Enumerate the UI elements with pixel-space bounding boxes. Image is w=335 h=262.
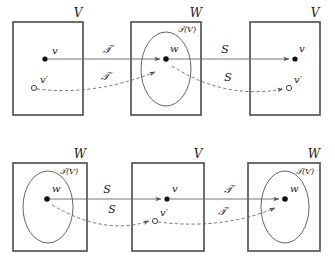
diagram-canvas: V v v′ W 𝒯(V) w V v: [0, 0, 335, 262]
point-w-label-bottom-left: w: [52, 183, 61, 194]
point-w-dot-bottom-right: [282, 196, 288, 202]
point-v-label-right: v: [299, 43, 305, 54]
point-v-dot-right: [292, 56, 297, 61]
point-v-label-bottom: v: [172, 183, 178, 194]
point-v-dot: [42, 56, 47, 61]
panel-top-right: V v v′: [250, 6, 321, 115]
point-v-prime-dot-right: [286, 85, 291, 90]
set-box-v-image: [250, 22, 320, 115]
set-label-v: V: [74, 6, 84, 20]
arrow-label-t-solid-bottom: 𝒯: [224, 183, 236, 196]
set-label-v-middle: V: [194, 147, 204, 161]
point-v-prime-dot-bottom: [152, 218, 157, 223]
linear-transformation-diagram: V v v′ W 𝒯(V) w V v: [0, 0, 335, 262]
panel-top-left: V v v′: [13, 6, 84, 115]
set-label-v-image: V: [311, 6, 321, 20]
point-v-prime-label-right: v′: [294, 74, 303, 85]
row-top: V v v′ W 𝒯(V) w V v: [13, 6, 321, 115]
point-v-prime-label: v′: [40, 74, 49, 85]
set-box-w-source: [13, 163, 87, 251]
arrow-label-t-dashed-bottom: 𝒯: [218, 205, 230, 218]
point-v-dot-bottom: [164, 196, 169, 201]
arrow-label-t-dashed-top: 𝒯: [101, 70, 113, 83]
arrow-label-s-dashed-top: S: [224, 71, 232, 84]
point-v-prime-label-bottom: v′: [160, 207, 169, 218]
arrow-label-s-dashed-bottom: S: [108, 203, 116, 216]
point-w-dot-bottom-left: [44, 196, 50, 202]
point-v-label: v: [52, 45, 58, 56]
point-w-label: w: [170, 43, 179, 54]
set-label-w: W: [190, 6, 204, 20]
set-label-w-target: W: [308, 147, 322, 161]
arrow-label-t-solid-top: 𝒯: [103, 43, 115, 56]
image-ellipse-label-bottom-right: 𝒯(V): [296, 167, 314, 176]
point-w-label-bottom-right: w: [290, 183, 299, 194]
set-label-w-source: W: [74, 147, 88, 161]
image-ellipse-label: 𝒯(V): [178, 25, 196, 34]
set-box-v-middle: [132, 163, 204, 251]
arrow-label-s-solid-bottom: S: [103, 183, 111, 196]
point-w-dot: [163, 56, 169, 62]
row-bottom: W 𝒯(V) w V v v′ W 𝒯(V): [13, 147, 322, 251]
arrow-label-s-solid-top: S: [221, 43, 229, 56]
set-box-w: [131, 22, 201, 115]
set-box-v: [13, 22, 83, 115]
point-v-prime-dot: [31, 85, 36, 90]
image-ellipse-label-bottom-left: 𝒯(V): [60, 167, 78, 176]
panel-top-middle: W 𝒯(V) w: [131, 6, 204, 115]
